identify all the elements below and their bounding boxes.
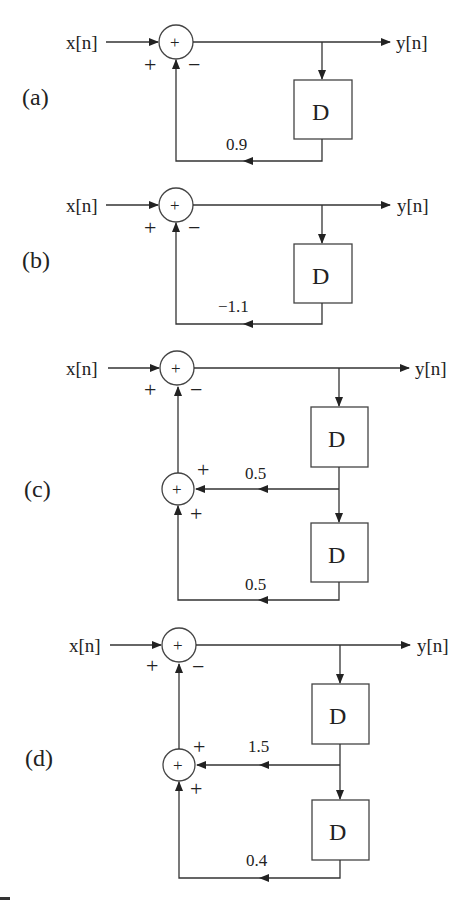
- gain-arrowhead-2: [258, 596, 268, 604]
- gain-arrowhead-1: [259, 761, 269, 769]
- input-label: x[n]: [69, 635, 101, 656]
- input-label: x[n]: [66, 358, 98, 379]
- gain-label: −1.1: [218, 297, 249, 316]
- input-label: x[n]: [66, 32, 98, 53]
- minus-sign: −: [192, 654, 204, 679]
- inner-sum-glyph: +: [173, 756, 183, 775]
- minus-sign: −: [188, 215, 200, 240]
- plus-sign: +: [144, 215, 156, 240]
- diagram-a: (a) x[n] + + − y[n] D 0.9: [22, 25, 428, 165]
- delay-label: D: [312, 99, 329, 125]
- output-label: y[n]: [417, 635, 449, 656]
- plus-sign: +: [144, 52, 156, 77]
- plus-sign-top: +: [193, 734, 205, 759]
- inner-sum-glyph: +: [172, 480, 182, 499]
- gain-label-2: 0.4: [246, 851, 268, 870]
- gain-label-2: 0.5: [245, 575, 266, 594]
- output-label: y[n]: [396, 32, 428, 53]
- diagram-d: (d) x[n] + + − y[n] D 1.5 + + + D 0.4: [25, 628, 449, 882]
- plus-sign-top: +: [197, 457, 209, 482]
- diagram-label: (a): [22, 84, 49, 110]
- gain-label-1: 1.5: [248, 737, 269, 756]
- plus-sign-bottom: +: [190, 501, 202, 526]
- plus-sign: +: [146, 653, 158, 678]
- sum-glyph: +: [170, 196, 180, 215]
- feedback-arrowhead: [243, 320, 253, 328]
- diagram-label: (b): [22, 247, 50, 273]
- delay-label-2: D: [329, 819, 346, 845]
- sum-glyph: +: [171, 359, 181, 378]
- gain-label: 0.9: [226, 135, 247, 154]
- sum-glyph: +: [170, 33, 180, 52]
- gain-arrowhead-2: [259, 874, 269, 882]
- diagram-label: (c): [24, 476, 51, 502]
- gain-arrowhead-1: [258, 485, 268, 493]
- diagram-b: (b) x[n] + + − y[n] D −1.1: [22, 188, 429, 328]
- sum-glyph: +: [173, 636, 183, 655]
- scan-artifact-mark: [0, 897, 10, 900]
- block-diagrams: (a) x[n] + + − y[n] D 0.9 (b) x[n] + + −…: [0, 0, 471, 901]
- feedback-arrowhead: [243, 157, 253, 165]
- gain-label-1: 0.5: [245, 464, 266, 483]
- output-label: y[n]: [397, 195, 429, 216]
- plus-sign-bottom: +: [190, 776, 202, 801]
- plus-sign: +: [144, 377, 156, 402]
- diagram-label: (d): [25, 745, 53, 771]
- minus-sign: −: [190, 377, 202, 402]
- output-label: y[n]: [415, 358, 447, 379]
- delay-label-2: D: [328, 542, 345, 568]
- delay-label-1: D: [329, 703, 346, 729]
- diagram-c: (c) x[n] + + − y[n] D 0.5 + + + D 0.5: [24, 351, 447, 604]
- input-label: x[n]: [66, 195, 98, 216]
- delay-label-1: D: [328, 426, 345, 452]
- delay-label: D: [312, 263, 329, 289]
- minus-sign: −: [188, 52, 200, 77]
